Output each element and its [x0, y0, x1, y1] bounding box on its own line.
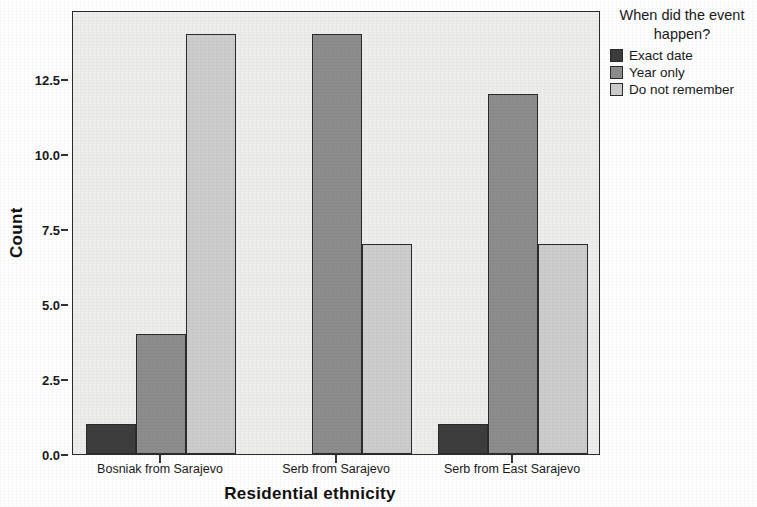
x-tick-label: Serb from East Sarajevo: [444, 462, 580, 476]
y-tick-label: 5.0: [42, 298, 60, 313]
legend-item: Exact date: [610, 48, 756, 63]
legend-title-line-1: When did the event: [610, 6, 754, 25]
y-tick-label: 2.5: [42, 373, 60, 388]
y-tick-mark: [61, 79, 68, 81]
y-tick-mark: [61, 154, 68, 156]
legend-swatch-icon: [610, 49, 623, 62]
legend-title: When did the event happen?: [608, 6, 756, 44]
bars-layer: [73, 12, 599, 454]
x-axis-tick-labels: Bosniak from SarajevoSerb from SarajevoS…: [72, 462, 600, 482]
x-tick-label: Bosniak from Sarajevo: [97, 462, 223, 476]
y-tick-label: 10.0: [35, 148, 60, 163]
legend-swatch-icon: [610, 66, 623, 79]
legend-item: Year only: [610, 65, 756, 80]
plot-area: [72, 11, 600, 455]
y-tick-label: 0.0: [42, 448, 60, 463]
legend-items: Exact dateYear onlyDo not remember: [608, 48, 756, 97]
y-tick-mark: [61, 454, 68, 456]
y-tick-label: 7.5: [42, 223, 60, 238]
y-tick-mark: [61, 304, 68, 306]
legend: When did the event happen? Exact dateYea…: [608, 6, 756, 99]
legend-title-line-2: happen?: [610, 25, 754, 44]
bar: [438, 424, 488, 454]
bar: [312, 34, 362, 454]
legend-item-label: Do not remember: [629, 82, 734, 97]
bar-chart-figure: Count 0.02.55.07.510.012.5 Bosniak from …: [0, 0, 757, 507]
bar: [538, 244, 588, 454]
y-tick-label: 12.5: [35, 73, 60, 88]
legend-item-label: Exact date: [629, 48, 693, 63]
x-tick-label: Serb from Sarajevo: [282, 462, 390, 476]
bar: [186, 34, 236, 454]
y-axis-tick-labels: 0.02.55.07.510.012.5: [24, 11, 68, 455]
y-tick-mark: [61, 379, 68, 381]
bar: [86, 424, 136, 454]
legend-swatch-icon: [610, 83, 623, 96]
bar: [136, 334, 186, 454]
y-tick-mark: [61, 229, 68, 231]
x-axis-title: Residential ethnicity: [0, 484, 620, 504]
bar: [488, 94, 538, 454]
legend-item: Do not remember: [610, 82, 756, 97]
legend-item-label: Year only: [629, 65, 685, 80]
bar: [362, 244, 412, 454]
